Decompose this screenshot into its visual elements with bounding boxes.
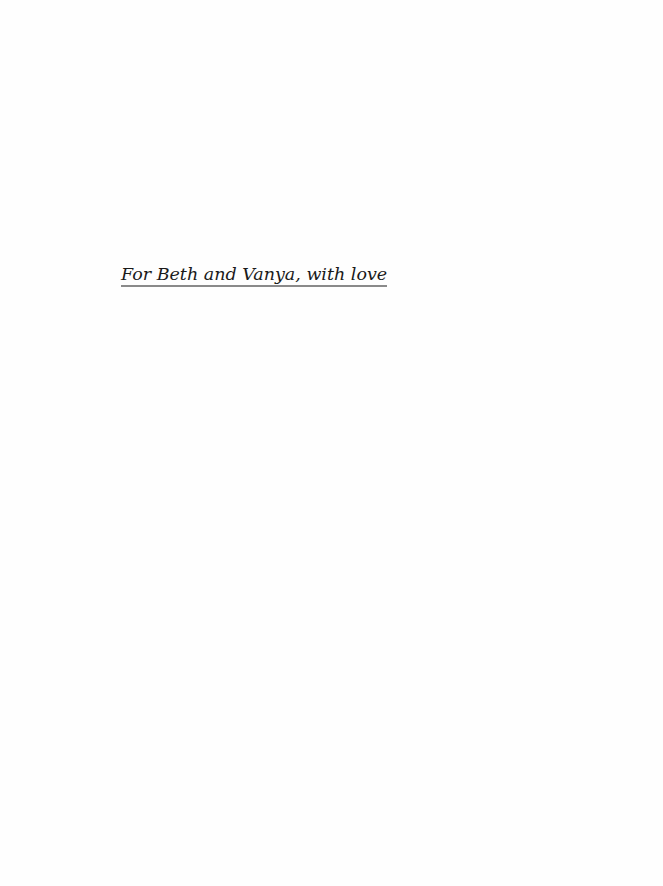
dedication-text: For Beth and Vanya, with love <box>121 264 387 287</box>
document-page: For Beth and Vanya, with love <box>0 0 663 886</box>
